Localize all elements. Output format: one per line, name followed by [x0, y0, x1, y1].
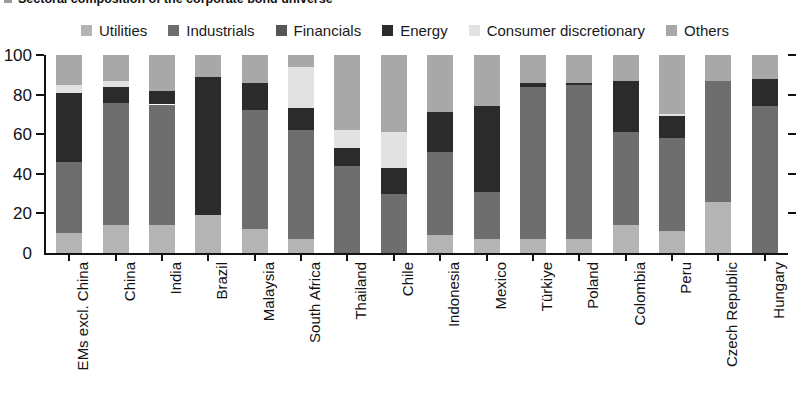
bar-segment[interactable]	[288, 130, 314, 239]
bar-stack-inner	[427, 55, 453, 253]
bar-segment[interactable]	[334, 148, 360, 166]
bar-segment[interactable]	[427, 55, 453, 112]
bar-segment[interactable]	[103, 55, 129, 81]
x-axis-category-label: South Africa	[307, 262, 322, 343]
legend-item[interactable]: Others	[666, 23, 729, 38]
legend-label: Industrials	[186, 23, 254, 38]
bar-stack[interactable]	[242, 55, 268, 253]
bar-stack[interactable]	[659, 55, 685, 253]
bar-segment[interactable]	[659, 231, 685, 253]
bar-segment[interactable]	[334, 130, 360, 148]
legend-item[interactable]: Energy	[382, 23, 448, 38]
bar-segment[interactable]	[474, 106, 500, 191]
x-axis-category-text: Poland	[585, 262, 600, 309]
bar-segment[interactable]	[613, 55, 639, 81]
bar-segment[interactable]	[613, 132, 639, 225]
legend-item[interactable]: Consumer discretionary	[469, 23, 645, 38]
bar-segment[interactable]	[242, 83, 268, 111]
bar-stack[interactable]	[381, 55, 407, 253]
bar-segment[interactable]	[288, 108, 314, 130]
bar-segment[interactable]	[659, 114, 685, 116]
legend-item[interactable]: Financials	[276, 23, 362, 38]
bar-segment[interactable]	[659, 55, 685, 114]
bar-segment[interactable]	[381, 194, 407, 253]
x-axis-category-text: South Africa	[307, 262, 322, 343]
bar-segment[interactable]	[520, 87, 546, 239]
x-axis-category-text: India	[168, 262, 183, 295]
bar-segment[interactable]	[381, 132, 407, 168]
bar-segment[interactable]	[195, 77, 221, 216]
bar-segment[interactable]	[427, 235, 453, 253]
bar-segment[interactable]	[242, 229, 268, 253]
bar-stack[interactable]	[195, 55, 221, 253]
bar-stack[interactable]	[427, 55, 453, 253]
bar-stack[interactable]	[474, 55, 500, 253]
bar-segment[interactable]	[613, 81, 639, 132]
legend-item[interactable]: Industrials	[168, 23, 254, 38]
bar-stack[interactable]	[149, 55, 175, 253]
bar-segment[interactable]	[334, 55, 360, 130]
bar-segment[interactable]	[659, 116, 685, 138]
bar-segment[interactable]	[474, 239, 500, 253]
bar-segment[interactable]	[520, 83, 546, 87]
bar-segment[interactable]	[56, 233, 82, 253]
bar-stack-inner	[56, 55, 82, 253]
bar-segment[interactable]	[705, 202, 731, 253]
bar-stack[interactable]	[705, 55, 731, 253]
bar-segment[interactable]	[56, 93, 82, 162]
bar-stack-inner	[566, 55, 592, 253]
bar-stack[interactable]	[752, 55, 778, 253]
bar-segment[interactable]	[242, 55, 268, 83]
bar-segment[interactable]	[195, 215, 221, 253]
bar-segment[interactable]	[566, 85, 592, 239]
bar-segment[interactable]	[705, 81, 731, 202]
bar-segment[interactable]	[659, 138, 685, 231]
bar-segment[interactable]	[752, 106, 778, 253]
bar-segment[interactable]	[195, 55, 221, 77]
bar-segment[interactable]	[288, 239, 314, 253]
bar-segment[interactable]	[566, 55, 592, 83]
bar-segment[interactable]	[56, 85, 82, 93]
bar-segment[interactable]	[566, 83, 592, 85]
bar-segment[interactable]	[149, 91, 175, 105]
bar-segment[interactable]	[520, 239, 546, 253]
bar-stack[interactable]	[520, 55, 546, 253]
bar-segment[interactable]	[752, 79, 778, 107]
bar-segment[interactable]	[242, 110, 268, 229]
bar-stack[interactable]	[566, 55, 592, 253]
bar-segment[interactable]	[427, 112, 453, 152]
legend-item[interactable]: Utilities	[81, 23, 147, 38]
bar-segment[interactable]	[474, 55, 500, 106]
bar-stack[interactable]	[613, 55, 639, 253]
x-tick-mark	[254, 255, 256, 261]
bar-segment[interactable]	[149, 225, 175, 253]
bar-segment[interactable]	[149, 55, 175, 91]
bar-stack[interactable]	[334, 55, 360, 253]
bar-segment[interactable]	[474, 192, 500, 240]
bar-segment[interactable]	[381, 55, 407, 132]
bar-segment[interactable]	[381, 168, 407, 194]
y-tick-label: 40	[13, 165, 32, 182]
bar-segment[interactable]	[56, 55, 82, 85]
bar-segment[interactable]	[613, 225, 639, 253]
bar-segment[interactable]	[752, 55, 778, 79]
y-tick-mark	[36, 94, 44, 96]
bar-stack[interactable]	[103, 55, 129, 253]
bar-segment[interactable]	[520, 55, 546, 83]
bar-segment[interactable]	[334, 166, 360, 253]
bar-stack[interactable]	[56, 55, 82, 253]
bar-segment[interactable]	[103, 87, 129, 103]
bar-segment[interactable]	[56, 162, 82, 233]
bar-segment[interactable]	[566, 239, 592, 253]
bar-segment[interactable]	[427, 152, 453, 235]
bar-segment[interactable]	[705, 55, 731, 81]
bar-segment[interactable]	[103, 225, 129, 253]
bar-segment[interactable]	[103, 103, 129, 226]
right-tick-mark	[788, 54, 796, 56]
bar-segment[interactable]	[103, 81, 129, 87]
bar-segment[interactable]	[288, 67, 314, 109]
x-axis-category-text: China	[122, 262, 137, 301]
bar-segment[interactable]	[149, 105, 175, 226]
bar-segment[interactable]	[288, 55, 314, 67]
bar-stack[interactable]	[288, 55, 314, 253]
